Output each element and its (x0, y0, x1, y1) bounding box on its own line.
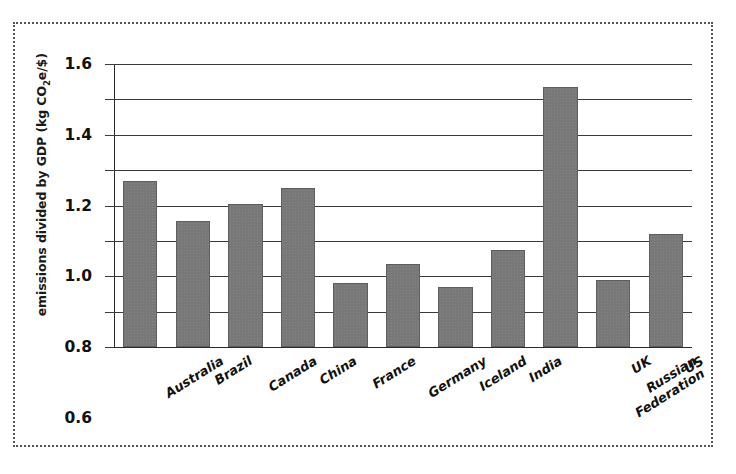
bar (649, 234, 683, 347)
y-axis-tick: 1.4 (105, 99, 114, 100)
y-axis-title-text-before: emissions divided by GDP (kg CO (34, 86, 49, 316)
y-axis-tick-label: 1.0 (65, 270, 92, 286)
y-axis-tick: 1.6 (105, 64, 114, 65)
bar (228, 204, 262, 347)
y-axis-title-container: emissions divided by GDP (kg CO2e/$) (15, 24, 43, 354)
y-axis-tick-label: 0.6 (65, 411, 92, 427)
bar (333, 283, 367, 347)
y-axis-tick-label: 1.2 (65, 199, 92, 215)
x-axis-tick-labels: AustraliaBrazilCanadaChinaFranceGermanyI… (114, 348, 692, 448)
y-axis-tick: 1.2 (105, 135, 114, 136)
bar (438, 287, 472, 347)
y-axis-tick-label: 1.4 (65, 128, 92, 144)
y-axis-title: emissions divided by GDP (kg CO2e/$) (34, 51, 52, 319)
bar (543, 87, 577, 347)
x-axis-tick-label: UK (629, 353, 655, 377)
y-axis-tick-label: 1.6 (65, 57, 92, 73)
y-axis-tick: 0.6 (105, 241, 114, 242)
chart-figure: emissions divided by GDP (kg CO2e/$) 00.… (13, 22, 713, 447)
y-axis-tick: 0.4 (105, 276, 114, 277)
x-axis-tick-label: France (370, 353, 419, 392)
y-axis-tick: 0.8 (105, 206, 114, 207)
y-axis-tick: 1.0 (105, 170, 114, 171)
bar (386, 264, 420, 347)
bar (123, 181, 157, 347)
x-axis-tick-label: India (526, 353, 565, 385)
y-axis-tick: 0.2 (105, 312, 114, 313)
bar (281, 188, 315, 347)
bar (176, 221, 210, 347)
y-axis-tick-label: 0.8 (65, 340, 92, 356)
y-axis-tick: 0 (105, 347, 114, 348)
bar (491, 250, 525, 347)
x-axis-tick-label: Germany (425, 353, 489, 401)
plot-area: 00.20.40.60.81.01.21.41.6 (114, 64, 692, 347)
bar (596, 280, 630, 347)
x-axis-tick-label: Canada (266, 353, 320, 395)
y-axis-title-subscript: 2 (42, 80, 52, 86)
bars-group (114, 64, 692, 347)
x-axis-tick-label: China (316, 353, 359, 388)
y-axis-title-text-after: e/$) (34, 53, 49, 80)
